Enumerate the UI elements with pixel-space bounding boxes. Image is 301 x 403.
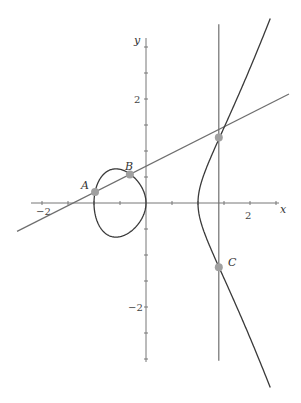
y-tick-label-neg2: −2 <box>128 302 143 313</box>
point-c-label: C <box>228 256 237 269</box>
x-tick-label-2: 2 <box>245 210 251 221</box>
point-b-label: B <box>124 160 133 173</box>
axes: x y −2 2 2 −2 <box>31 34 287 362</box>
elliptic-curve-diagram: x y −2 2 2 −2 A B C <box>0 0 301 403</box>
points: A B C <box>80 134 237 272</box>
point-intersection <box>215 134 223 142</box>
y-tick-label-2: 2 <box>134 94 140 105</box>
y-axis-label: y <box>133 34 141 47</box>
point-a-label: A <box>80 179 89 192</box>
point-c <box>215 263 223 271</box>
point-a <box>91 188 99 196</box>
x-axis-label: x <box>280 203 287 216</box>
